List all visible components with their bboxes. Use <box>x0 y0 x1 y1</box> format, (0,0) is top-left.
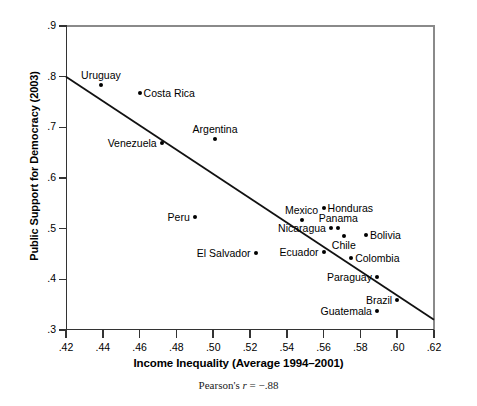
data-point-label: Ecuador <box>279 247 318 258</box>
scatter-plot-figure: Public Support for Democracy (2003) .9.8… <box>0 0 477 406</box>
data-point-label: Venezuela <box>108 137 157 148</box>
data-point-label: Panama <box>319 213 358 224</box>
data-point <box>254 251 258 255</box>
data-point-label: Argentina <box>193 124 238 135</box>
data-point-label: Guatemala <box>321 306 372 317</box>
data-point <box>193 215 197 219</box>
data-point <box>395 298 399 302</box>
data-point <box>213 137 217 141</box>
data-point <box>99 83 103 87</box>
regression-line <box>0 0 477 406</box>
x-axis-title: Income Inequality (Average 1994–2001) <box>0 357 477 369</box>
data-point-label: Chile <box>332 240 356 251</box>
caption-prefix: Pearson's <box>199 379 243 391</box>
data-point <box>160 141 164 145</box>
data-point-label: Peru <box>168 212 190 223</box>
data-point-label: Costa Rica <box>144 87 195 98</box>
pearson-correlation-caption: Pearson's r = −.88 <box>0 379 477 391</box>
data-point-label: Colombia <box>355 252 399 263</box>
data-point-label: Brazil <box>366 294 392 305</box>
data-point-label: Nicaragua <box>278 223 326 234</box>
data-point-label: Mexico <box>285 205 318 216</box>
data-point-label: Uruguay <box>81 70 121 81</box>
data-point <box>349 256 353 260</box>
caption-value: = −.88 <box>247 379 279 391</box>
data-point-label: El Salvador <box>197 247 251 258</box>
data-point-label: Bolivia <box>370 230 401 241</box>
data-point-label: Paraguay <box>327 272 372 283</box>
data-point <box>138 91 142 95</box>
